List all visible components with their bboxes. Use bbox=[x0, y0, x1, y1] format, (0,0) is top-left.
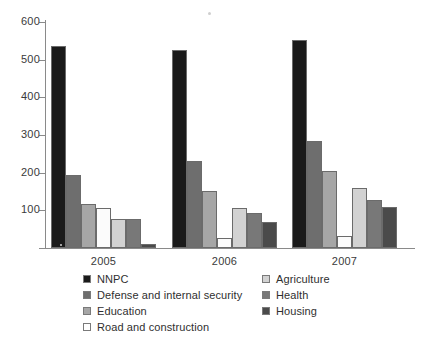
x-axis-label-2007: 2007 bbox=[315, 255, 375, 267]
y-axis-tick bbox=[39, 173, 46, 174]
x-axis-label-2006: 2006 bbox=[195, 255, 255, 267]
bar-housing-2005 bbox=[141, 244, 156, 248]
bar-education-2006 bbox=[202, 191, 217, 248]
bar-housing-2007 bbox=[382, 207, 397, 248]
scan-speck bbox=[208, 12, 211, 15]
legend-item-label: Education bbox=[97, 305, 147, 317]
bar-road-and-construction-2006 bbox=[217, 238, 232, 248]
legend-item-education[interactable]: Education bbox=[83, 304, 242, 318]
legend-swatch-icon bbox=[83, 275, 91, 283]
legend-item-label: Housing bbox=[276, 305, 317, 317]
legend-item-label: NNPC bbox=[97, 273, 129, 285]
bar-nnpc-2006 bbox=[172, 50, 187, 249]
bar-road-and-construction-2005 bbox=[96, 208, 111, 248]
x-axis-label-2005: 2005 bbox=[74, 255, 134, 267]
bar-defense-and-internal-security-2006 bbox=[187, 161, 202, 248]
bar-agriculture-2007 bbox=[352, 188, 367, 248]
legend-item-label: Health bbox=[276, 289, 308, 301]
legend-swatch-icon bbox=[83, 323, 91, 331]
legend-item-defense-and-internal-security[interactable]: Defense and internal security bbox=[83, 288, 242, 302]
bar-defense-and-internal-security-2007 bbox=[307, 141, 322, 248]
bar-health-2005 bbox=[126, 219, 141, 248]
bar-health-2006 bbox=[247, 213, 262, 248]
bar-education-2007 bbox=[322, 171, 337, 248]
plot-area: 100200300400500600 200520062007 bbox=[0, 0, 423, 270]
legend-item-label: Road and construction bbox=[97, 321, 209, 333]
bar-agriculture-2006 bbox=[232, 208, 247, 248]
bar-nnpc-2005 bbox=[51, 46, 66, 248]
bar-nnpc-2007 bbox=[292, 40, 307, 248]
legend-item-housing[interactable]: Housing bbox=[262, 304, 330, 318]
legend-column-left: NNPCDefense and internal securityEducati… bbox=[83, 272, 242, 336]
legend-item-label: Defense and internal security bbox=[97, 289, 242, 301]
y-axis-tick-label: 200 bbox=[21, 167, 40, 178]
y-axis-tick-label: 100 bbox=[21, 204, 40, 215]
y-axis-tick bbox=[39, 135, 46, 136]
y-axis-tick bbox=[39, 60, 46, 61]
bar-agriculture-2005 bbox=[111, 219, 126, 248]
legend-item-road-and-construction[interactable]: Road and construction bbox=[83, 320, 242, 334]
bar-housing-2006 bbox=[262, 222, 277, 248]
legend-item-health[interactable]: Health bbox=[262, 288, 330, 302]
bar-road-and-construction-2007 bbox=[337, 236, 352, 248]
bar-defense-and-internal-security-2005 bbox=[66, 175, 81, 248]
y-axis-tick bbox=[39, 97, 46, 98]
legend-column-right: AgricultureHealthHousing bbox=[262, 272, 330, 320]
legend-item-agriculture[interactable]: Agriculture bbox=[262, 272, 330, 286]
bar-education-2005 bbox=[81, 204, 96, 248]
bar-health-2007 bbox=[367, 200, 382, 248]
legend-swatch-icon bbox=[262, 307, 270, 315]
legend-item-label: Agriculture bbox=[276, 273, 330, 285]
y-axis-tick-label: 500 bbox=[21, 54, 40, 65]
y-axis-tick-label: 300 bbox=[21, 129, 40, 140]
legend-swatch-icon bbox=[262, 275, 270, 283]
legend-swatch-icon bbox=[83, 291, 91, 299]
y-axis-tick bbox=[39, 210, 46, 211]
y-axis-tick-label: 600 bbox=[21, 16, 40, 27]
legend-item-nnpc[interactable]: NNPC bbox=[83, 272, 242, 286]
x-axis-line bbox=[39, 248, 415, 249]
bar-chart-figure: 100200300400500600 200520062007 NNPCDefe… bbox=[0, 0, 423, 346]
legend-swatch-icon bbox=[262, 291, 270, 299]
legend-swatch-icon bbox=[83, 307, 91, 315]
y-axis-tick bbox=[39, 22, 46, 23]
chart-legend: NNPCDefense and internal securityEducati… bbox=[0, 272, 423, 346]
y-axis-tick-label: 400 bbox=[21, 91, 40, 102]
scan-speck bbox=[60, 244, 62, 246]
